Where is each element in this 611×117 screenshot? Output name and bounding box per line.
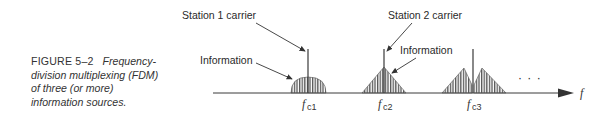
information-left-arrow [256,63,292,79]
svg-text:c3: c3 [472,102,482,112]
svg-text:c2: c2 [383,102,393,112]
axis-label-f: f [580,86,585,100]
information-label-left: Information [200,54,253,66]
information-label-right: Information [400,44,453,56]
station1-carrier-arrow [256,23,305,51]
axis-arrow-icon [558,89,574,98]
fdm-spectrum-diagram: f · · · f c1 f c2 f c3 Station 1 carrier… [0,0,611,117]
svg-text:c1: c1 [307,102,317,112]
information-right-arrow [392,58,416,73]
station1-spectrum [291,49,326,93]
more-stations-ellipsis: · · · [518,71,542,85]
carrier-label-fc3: f c3 [467,97,482,112]
station2-carrier-label: Station 2 carrier [388,9,463,21]
carrier-label-fc1: f c1 [302,97,317,112]
carrier-label-fc2: f c2 [378,97,393,112]
station1-carrier-label: Station 1 carrier [182,9,257,21]
